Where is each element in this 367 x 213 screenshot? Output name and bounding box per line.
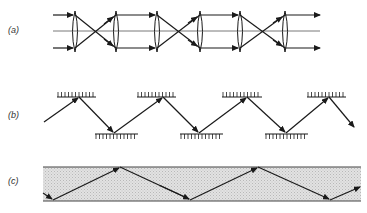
panel-b-mirror-waveguide <box>44 92 354 139</box>
panel-c-slab-waveguide <box>43 167 361 201</box>
lens-icon <box>73 11 288 52</box>
dielectric-slab <box>43 167 361 201</box>
light-ray <box>44 97 354 133</box>
waveguide-diagram <box>0 0 367 213</box>
panel-a-lens-waveguide <box>53 11 320 52</box>
